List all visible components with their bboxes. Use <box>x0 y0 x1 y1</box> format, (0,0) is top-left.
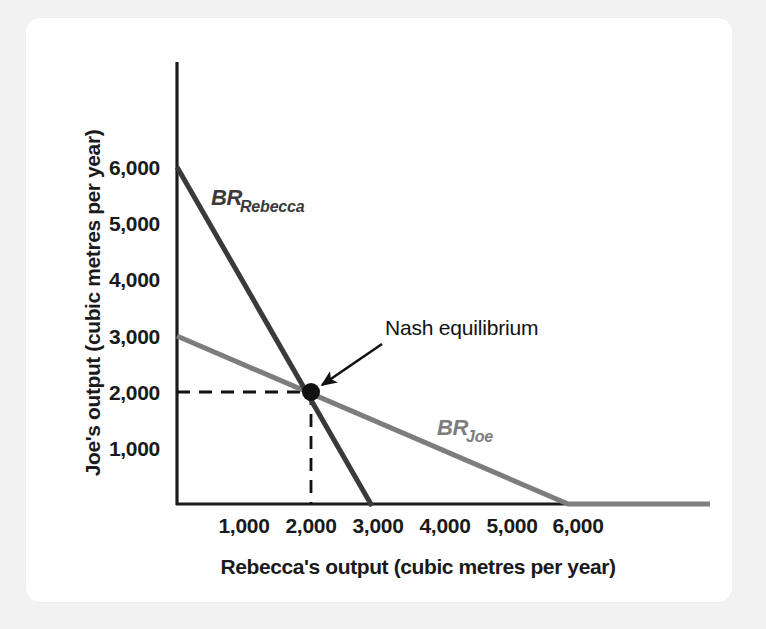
nash-arrow <box>322 344 382 385</box>
nash-equilibrium-annotation: Nash equilibrium <box>302 316 538 401</box>
axis-lines <box>176 62 569 505</box>
figure-root: 6,000 5,000 4,000 3,000 2,000 1,000 1,00… <box>0 0 766 629</box>
x-tick-label: 6,000 <box>552 514 603 537</box>
br-rebecca-line <box>177 167 372 506</box>
y-tick-label: 4,000 <box>109 268 160 291</box>
x-tick-label: 2,000 <box>285 514 336 537</box>
br-joe-label-main: BR <box>437 415 469 440</box>
y-tick-labels: 6,000 5,000 4,000 3,000 2,000 1,000 <box>109 156 160 460</box>
y-tick-label: 3,000 <box>109 325 160 348</box>
nash-equilibrium-point <box>302 383 320 401</box>
guide-lines <box>177 392 311 504</box>
br-rebecca-curve <box>177 167 372 506</box>
br-joe-label-sub: Joe <box>466 428 493 445</box>
y-tick-label: 6,000 <box>109 156 160 179</box>
br-joe-label: BR Joe <box>437 415 493 445</box>
br-rebecca-label-sub: Rebecca <box>240 198 305 215</box>
y-axis-title: Joe's output (cubic metres per year) <box>81 130 104 477</box>
br-rebecca-label: BR Rebecca <box>211 185 305 215</box>
x-axis-title: Rebecca's output (cubic metres per year) <box>220 555 615 578</box>
nash-equilibrium-label: Nash equilibrium <box>385 316 538 339</box>
best-response-chart: 6,000 5,000 4,000 3,000 2,000 1,000 1,00… <box>0 0 766 629</box>
x-tick-label: 4,000 <box>419 514 470 537</box>
y-tick-label: 2,000 <box>109 381 160 404</box>
br-rebecca-label-main: BR <box>211 185 243 210</box>
x-tick-label: 3,000 <box>352 514 403 537</box>
y-tick-label: 5,000 <box>109 212 160 235</box>
x-tick-label: 5,000 <box>486 514 537 537</box>
x-tick-label: 1,000 <box>218 514 269 537</box>
x-tick-labels: 1,000 2,000 3,000 4,000 5,000 6,000 <box>218 514 603 537</box>
y-tick-label: 1,000 <box>109 437 160 460</box>
